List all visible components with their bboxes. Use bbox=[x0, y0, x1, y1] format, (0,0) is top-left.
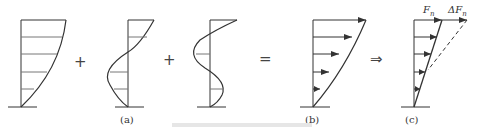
equivalent-force-distribution bbox=[401, 20, 467, 107]
mode-shape-2 bbox=[107, 20, 154, 107]
delta-fn-subscript: n bbox=[462, 10, 467, 18]
panel-label-c: (c) bbox=[405, 114, 418, 125]
plus-operator-2: + bbox=[163, 51, 176, 69]
equals-operator: = bbox=[259, 50, 272, 68]
force-label-delta-fn: ΔFn bbox=[448, 4, 467, 18]
implies-arrow-icon: ⇒ bbox=[370, 50, 383, 68]
delta-fn-text: ΔF bbox=[448, 4, 462, 15]
fn-subscript: n bbox=[430, 10, 435, 18]
mode-shape-1 bbox=[8, 20, 66, 107]
plus-operator-1: + bbox=[74, 53, 87, 71]
figure-caption bbox=[172, 123, 312, 127]
force-label-fn: Fn bbox=[423, 4, 434, 18]
combined-force-distribution bbox=[300, 20, 366, 107]
mode-shape-3 bbox=[194, 20, 237, 107]
panel-label-a: (a) bbox=[120, 114, 134, 125]
fn-text: F bbox=[423, 4, 430, 15]
